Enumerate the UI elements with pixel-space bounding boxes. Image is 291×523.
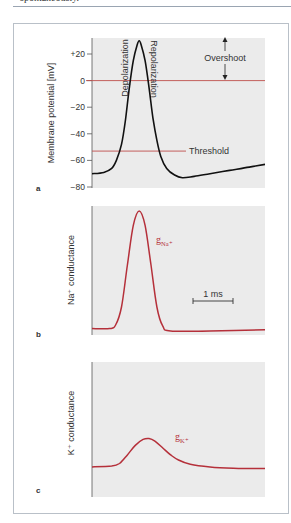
- panel-c-ylabel: K⁺ conductance: [66, 391, 76, 456]
- y-tick-label: +20: [71, 49, 86, 59]
- threshold-label: Threshold: [189, 146, 229, 156]
- panel-c-label: c: [36, 486, 41, 495]
- panel-b-background: [92, 206, 265, 335]
- panel-c-background: [92, 362, 265, 497]
- k-subscript: K⁺: [180, 437, 189, 444]
- panel-b: Na⁺ conductance gNa⁺ 1 ms b: [36, 206, 265, 339]
- panel-a-label: a: [36, 184, 41, 193]
- repolarization-label: Repolarization: [149, 40, 159, 98]
- na-subscript: Na⁺: [161, 240, 173, 247]
- y-tick-label: −80: [71, 182, 86, 192]
- scale-bar-label: 1 ms: [203, 289, 223, 299]
- y-tick-label: −20: [71, 102, 86, 112]
- y-tick-label: −60: [71, 155, 86, 165]
- y-tick-label: −40: [71, 129, 86, 139]
- panel-b-label: b: [36, 330, 41, 339]
- panel-a-ylabel: Membrane potential [mV]: [46, 63, 56, 164]
- y-tick-label: 0: [80, 76, 85, 86]
- panel-a: +200−20−40−60−80 Membrane potential [mV]…: [36, 37, 265, 193]
- depolarization-label: Depolarization: [120, 39, 130, 97]
- panel-a-ticks: +200−20−40−60−80: [71, 49, 92, 192]
- panel-c: K⁺ conductance gK⁺ c: [36, 362, 265, 497]
- figure-svg: +200−20−40−60−80 Membrane potential [mV]…: [0, 0, 291, 523]
- overshoot-label: Overshoot: [204, 53, 246, 63]
- panel-b-ylabel: Na⁺ conductance: [66, 235, 76, 305]
